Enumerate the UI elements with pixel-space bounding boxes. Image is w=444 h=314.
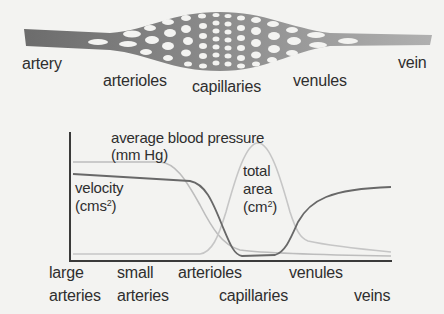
x-label-capillaries: capillaries [219, 287, 288, 305]
label-pressure-line2: (mm Hg) [111, 146, 168, 163]
label-pressure-line1: average blood pressure [111, 129, 264, 146]
label-area-line1: total [243, 162, 270, 179]
label-area-line2: area [243, 180, 272, 197]
x-label-large-arteries: arteries [49, 287, 101, 305]
x-label-large: large [49, 264, 84, 282]
label-area-line3: (cm2) [243, 198, 277, 215]
x-label-veins: veins [354, 287, 390, 305]
x-label-venules: venules [289, 264, 343, 282]
label-velocity-line1: velocity [75, 179, 123, 196]
label-velocity-line2: (cms2) [75, 197, 116, 214]
x-label-small-arteries: arteries [117, 287, 169, 305]
x-label-arterioles: arterioles [178, 264, 242, 282]
x-label-small: small [117, 264, 153, 282]
